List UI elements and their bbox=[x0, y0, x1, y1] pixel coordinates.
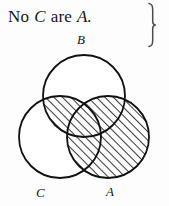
proposition-subject-term: C bbox=[34, 7, 47, 26]
proposition-copula: are bbox=[51, 7, 72, 26]
proposition-quantifier: No bbox=[8, 7, 29, 26]
proposition-predicate-term: A. bbox=[76, 7, 92, 26]
grouping-brace-icon bbox=[146, 2, 162, 48]
proposition-text: No C are A. bbox=[8, 6, 93, 28]
grouping-brace bbox=[146, 2, 162, 48]
venn-label-C: C bbox=[36, 186, 45, 199]
venn-label-A: A bbox=[106, 185, 114, 198]
venn-diagram bbox=[0, 44, 169, 180]
venn-label-B: B bbox=[77, 33, 85, 46]
figure-canvas: No C are A. bbox=[0, 0, 169, 206]
